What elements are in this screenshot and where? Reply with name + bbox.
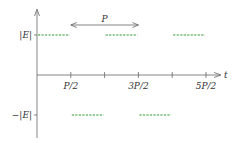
x-axis-label: t: [224, 70, 228, 80]
square-wave-diagram: tP/23P/25P/2|E|−|E|P: [0, 0, 235, 143]
x-tick-label: P/2: [62, 81, 78, 91]
axes: [34, 9, 221, 138]
period-label: P: [101, 14, 109, 24]
y-tick-label: |E|: [19, 30, 32, 41]
y-tick-label: −|E|: [12, 110, 32, 121]
x-tick-label: 5P/2: [196, 81, 217, 91]
labels: tP/23P/25P/2|E|−|E|P: [12, 14, 228, 121]
x-tick-label: 3P/2: [128, 81, 149, 91]
